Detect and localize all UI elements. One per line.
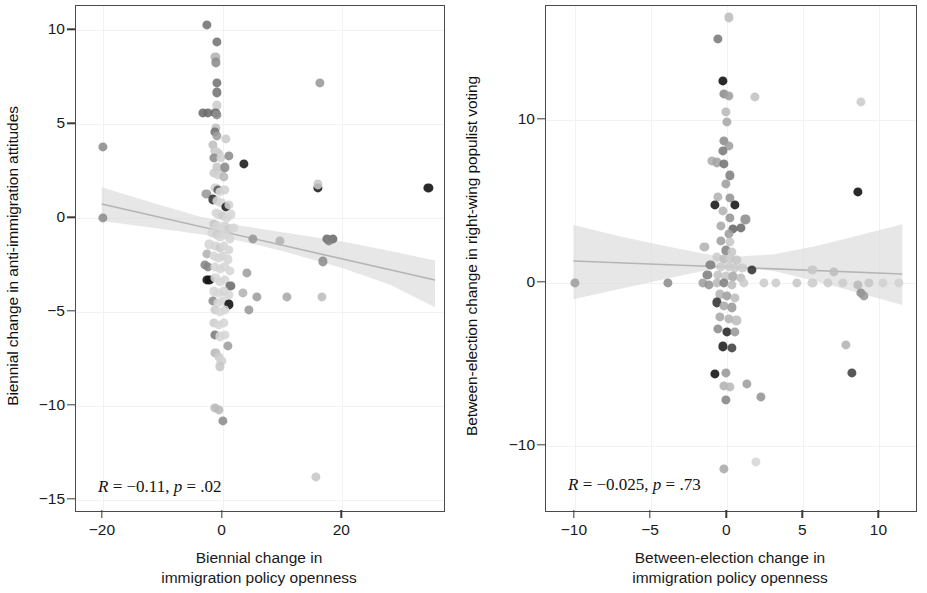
y-tick-label: −10 (39, 396, 65, 414)
data-point (756, 392, 765, 401)
data-point (311, 473, 320, 482)
data-point (864, 278, 873, 287)
x-tick-label: 5 (798, 521, 807, 539)
x-tick-mark (341, 510, 342, 518)
p-value: = .02 (182, 477, 221, 496)
data-point (283, 292, 292, 301)
data-point (238, 289, 247, 298)
y-tick-labels-right: 100−10 (484, 5, 545, 510)
x-tick-mark (878, 510, 879, 518)
data-point (316, 78, 325, 87)
data-point (860, 291, 869, 300)
data-point (242, 268, 251, 277)
y-tick-mark (537, 118, 545, 119)
y-tick-mark (537, 281, 545, 282)
y-axis-label-right: Between-election change in right-wing po… (460, 0, 484, 512)
y-axis-label-left: Biennial change in anti-immigration atti… (0, 0, 26, 512)
data-point (225, 266, 234, 275)
r-symbol: R (98, 477, 108, 496)
data-point (752, 458, 761, 467)
x-tick-label: 0 (217, 521, 226, 539)
x-axis-label-left: Biennial change in immigration policy op… (75, 548, 443, 589)
y-tick-label: −15 (39, 490, 65, 508)
x-axis-label-left-line2: immigration policy openness (75, 568, 443, 588)
data-point (718, 76, 727, 85)
data-point (570, 278, 579, 287)
data-point (841, 340, 850, 349)
data-point (739, 278, 748, 287)
y-tick-mark (67, 498, 75, 499)
data-point (771, 278, 780, 287)
statistics-annotation-right: R = −0.025, p = .73 (568, 475, 701, 495)
data-point (319, 257, 328, 266)
x-axis-ticks-right: −10−50510 (545, 510, 915, 544)
x-tick-mark (221, 510, 222, 518)
data-point (700, 243, 709, 252)
y-tick-label: 10 (518, 110, 535, 128)
data-points-right (546, 6, 916, 511)
x-axis-label-left-line1: Biennial change in (75, 548, 443, 568)
data-point (727, 280, 736, 289)
data-point (857, 98, 866, 107)
data-point (98, 214, 107, 223)
data-point (742, 379, 751, 388)
figure-container: Biennial change in anti-immigration atti… (0, 0, 927, 593)
plot-area-right: R = −0.025, p = .73 (545, 5, 917, 512)
x-tick-mark (802, 510, 803, 518)
data-point (823, 278, 832, 287)
x-tick-label: −10 (561, 521, 587, 539)
data-point (750, 93, 759, 102)
data-point (721, 396, 730, 405)
data-point (720, 159, 729, 168)
x-axis-label-right-line1: Between-election change in (545, 548, 915, 568)
data-point (838, 278, 847, 287)
data-point (732, 316, 741, 325)
data-point (721, 179, 730, 188)
data-point (726, 213, 735, 222)
data-point (718, 146, 727, 155)
data-point (222, 135, 231, 144)
data-point (219, 319, 228, 328)
data-point (723, 117, 732, 126)
data-point (736, 223, 745, 232)
plot-area-left: R = −0.11, p = .02 (75, 5, 445, 512)
x-tick-label: 20 (333, 521, 350, 539)
data-point (253, 292, 262, 301)
data-point (663, 278, 672, 287)
statistics-annotation-left: R = −0.11, p = .02 (98, 477, 222, 497)
p-symbol: p (174, 477, 183, 496)
y-tick-mark (67, 29, 75, 30)
y-tick-label: 0 (56, 208, 65, 226)
data-point (724, 13, 733, 22)
data-point (895, 278, 904, 287)
data-point (219, 416, 228, 425)
data-point (424, 184, 433, 193)
data-point (726, 383, 735, 392)
data-point (829, 267, 838, 276)
r-value: = −0.11, (108, 477, 173, 496)
p-value: = .73 (661, 475, 700, 494)
y-tick-label: 0 (526, 273, 535, 291)
data-point (98, 142, 107, 151)
data-point (317, 292, 326, 301)
data-point (240, 159, 249, 168)
x-tick-label: −20 (89, 521, 115, 539)
y-tick-mark (67, 123, 75, 124)
data-point (721, 107, 730, 116)
panel-right: Between-election change in right-wing po… (460, 0, 927, 593)
data-point (720, 464, 729, 473)
data-point (220, 330, 229, 339)
data-point (730, 327, 739, 336)
x-tick-mark (573, 510, 574, 518)
data-point (710, 370, 719, 379)
data-point (212, 78, 221, 87)
data-point (244, 306, 253, 315)
x-axis-ticks-left: −20020 (75, 510, 443, 544)
x-axis-label-right-line2: immigration policy openness (545, 568, 915, 588)
y-tick-mark (67, 310, 75, 311)
data-point (214, 405, 223, 414)
y-tick-label: −5 (47, 302, 65, 320)
data-point (212, 88, 221, 97)
data-point (713, 324, 722, 333)
data-point (717, 236, 726, 245)
